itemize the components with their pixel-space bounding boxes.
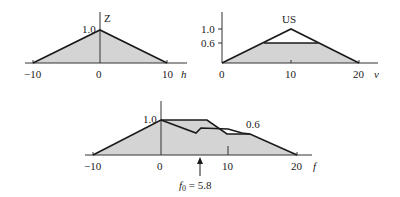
us-title: US xyxy=(282,13,296,25)
centroid-label: f0 = 5.8 xyxy=(179,179,212,193)
us-y-label: 1.0 xyxy=(201,23,215,35)
f-union-area xyxy=(93,120,297,155)
centroid-arrow-head xyxy=(197,157,203,164)
f-peak-label: 1.0 xyxy=(143,113,157,125)
z-tick-label: 0 xyxy=(96,68,102,80)
chart-z: Z 1.0 −10 0 10 h xyxy=(24,12,187,80)
f-tick-label: 20 xyxy=(291,160,303,172)
chart-f: 1.0 0.6 −10 0 10 20 f f0 = 5.8 xyxy=(84,101,318,193)
chart-us: US 1.0 0.6 0 10 20 v xyxy=(201,12,379,80)
f-level-label: 0.6 xyxy=(246,118,260,130)
f-tick-label: 0 xyxy=(157,160,163,172)
f-tick-label: −10 xyxy=(84,160,102,172)
us-axis-var: v xyxy=(374,68,379,80)
us-tick-label: 20 xyxy=(353,68,365,80)
z-peak-label: 1.0 xyxy=(82,23,96,35)
us-tick-label: 10 xyxy=(285,68,297,80)
us-tick-label: 0 xyxy=(219,68,225,80)
z-title: Z xyxy=(104,12,111,24)
z-tick-label: 10 xyxy=(162,68,174,80)
fuzzy-diagram: Z 1.0 −10 0 10 h US 1.0 0.6 0 10 20 v 1.… xyxy=(0,0,400,197)
z-axis-var: h xyxy=(181,68,187,80)
z-tick-label: −10 xyxy=(24,68,42,80)
us-y-label: 0.6 xyxy=(201,37,215,49)
f-tick-label: 10 xyxy=(222,160,234,172)
f-axis-var: f xyxy=(313,160,318,172)
